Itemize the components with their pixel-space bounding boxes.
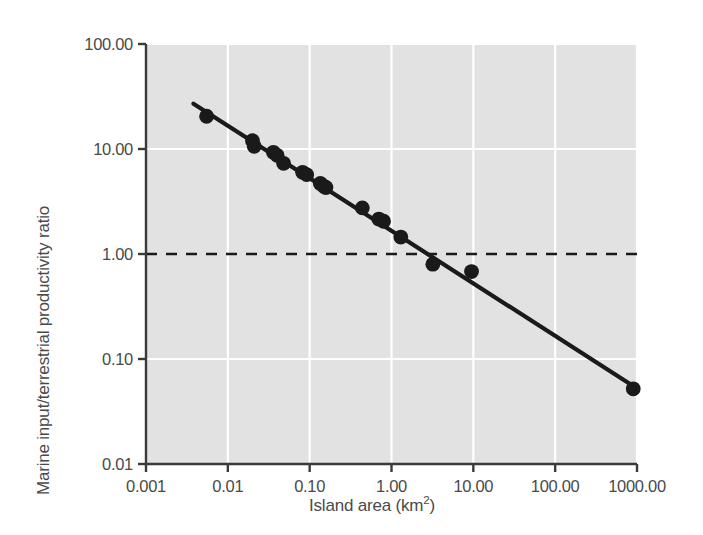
y-axis-tick-label: 100.00: [84, 35, 133, 54]
figure-panel: 0.010.101.0010.00100.000.0010.010.101.00…: [0, 0, 703, 535]
y-axis-tick-label: 0.01: [102, 455, 133, 474]
data-point: [319, 180, 334, 195]
data-point: [276, 156, 291, 171]
x-axis-title: Island area (km2): [309, 494, 435, 516]
data-point: [376, 214, 391, 229]
x-axis-tick-label: 100.00: [531, 477, 580, 496]
x-axis-title-tail: ): [429, 496, 434, 515]
y-axis-tick-label: 0.10: [102, 350, 133, 369]
y-axis-tick-label: 1.00: [102, 245, 133, 264]
data-point: [464, 264, 479, 279]
y-axis-title: Marine input/terrestrial productivity ra…: [34, 206, 54, 495]
x-axis-tick-label: 0.01: [212, 477, 243, 496]
data-point: [626, 381, 641, 396]
data-point: [425, 257, 440, 272]
x-axis-title-base: Island area (km: [309, 496, 423, 515]
data-point: [393, 230, 408, 245]
x-axis-tick-label: 0.001: [126, 477, 166, 496]
data-point: [299, 167, 314, 182]
data-point: [199, 109, 214, 124]
x-axis-tick-label: 10.00: [453, 477, 493, 496]
y-axis-tick-label: 10.00: [93, 140, 133, 159]
data-point: [355, 200, 370, 215]
data-point: [247, 139, 262, 154]
x-axis-tick-label: 1000.00: [608, 477, 666, 496]
